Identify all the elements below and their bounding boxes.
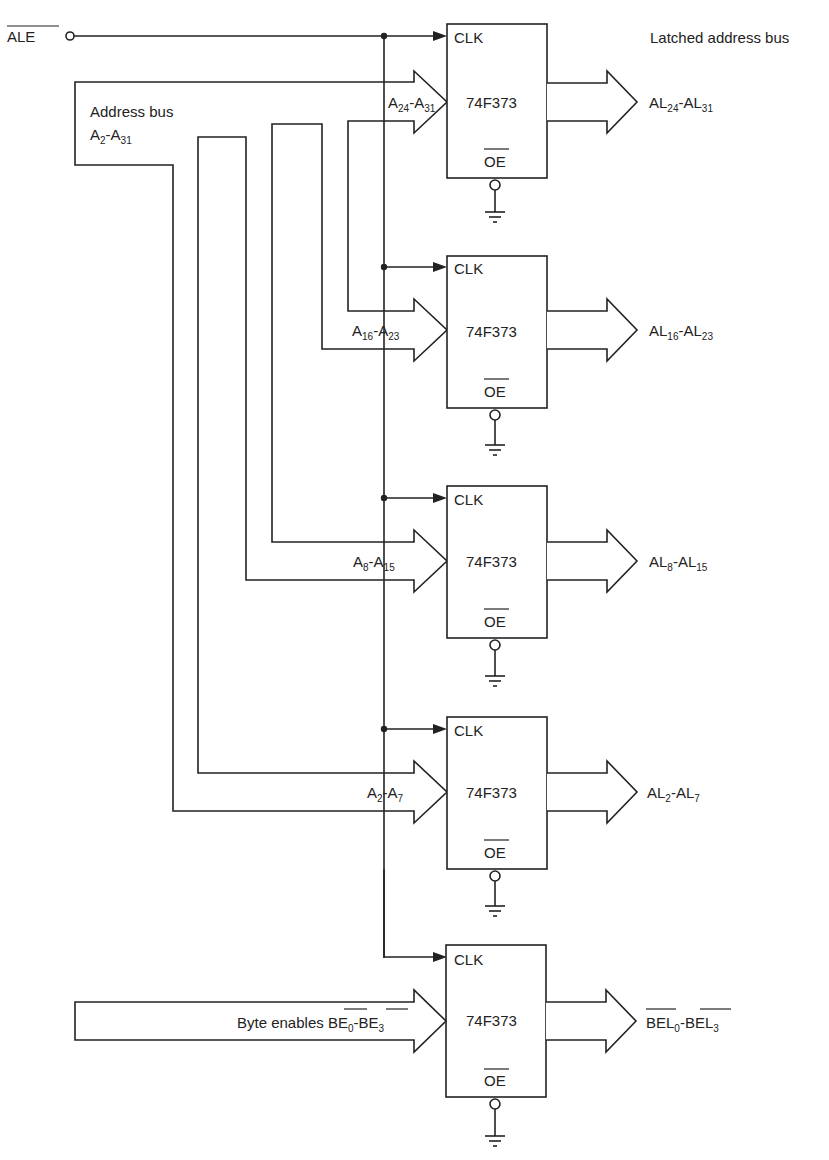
latch-1-part-label: 74F373 [466,94,517,111]
ale-label: ALE [7,28,35,45]
clk-arrow-icon [433,31,447,41]
address-bus: Address bus A2-A31 [75,71,447,823]
latch-1: CLK 74F373 OE A24-A31 AL24-AL31 [388,24,713,222]
junction-dot-icon [381,726,387,732]
ground-icon [485,1136,505,1146]
latch-3-clk-label: CLK [454,491,483,508]
latch-1-output-arrow [547,71,637,133]
clk-arrow-icon [433,952,447,962]
latch-3-oe-label: OE [484,613,506,630]
latch-4-output-arrow [547,761,637,823]
oe-bubble-icon [490,1099,500,1109]
address-bus-outline [75,71,447,823]
junction-dot-icon [381,495,387,501]
latched-address-bus-title: Latched address bus [650,29,789,46]
clk-branch-wire [384,869,438,957]
latch-3: CLK 74F373 OE A8-A15 AL8-AL15 [353,486,708,686]
address-bus-label: Address bus [90,103,173,120]
ground-icon [485,445,505,455]
latch-1-oe-label: OE [484,153,506,170]
latch-2-output-arrow [547,299,637,361]
latch-2-part-label: 74F373 [466,323,517,340]
oe-bubble-icon [490,640,500,650]
latch-3-part-label: 74F373 [466,553,517,570]
oe-bubble-icon [490,410,500,420]
latch-4-oe-label: OE [484,844,506,861]
latch-2: CLK 74F373 OE A16-A23 AL16-AL23 [352,256,713,455]
ground-icon [485,676,505,686]
latch-5: CLK 74F373 OE Byte enables BE0-BE3 BEL0-… [75,869,731,1146]
latch-4-clk-label: CLK [454,722,483,739]
ale-signal: ALE [7,26,447,45]
latch-2-oe-label: OE [484,383,506,400]
latch-3-output-label: AL8-AL15 [649,553,708,573]
latch-1-output-label: AL24-AL31 [649,94,713,114]
oe-bubble-icon [490,871,500,881]
latch-2-clk-label: CLK [454,260,483,277]
ale-inversion-bubble-icon [66,32,74,40]
oe-bubble-icon [490,180,500,190]
junction-dot-icon [381,264,387,270]
latch-5-oe-label: OE [484,1072,506,1089]
clk-arrow-icon [433,262,447,272]
clk-arrow-icon [433,724,447,734]
latch-3-output-arrow [547,530,637,592]
latch-2-output-label: AL16-AL23 [649,322,713,342]
ground-icon [485,906,505,916]
ground-icon [485,212,505,222]
latch-5-output-arrow [546,990,636,1052]
latch-5-clk-label: CLK [454,951,483,968]
latch-5-part-label: 74F373 [466,1012,517,1029]
latch-4-part-label: 74F373 [466,784,517,801]
latch-schematic: ALE Address bus A2-A31 CLK 74F373 OE A24… [0,0,829,1160]
latch-1-clk-label: CLK [454,29,483,46]
latch-4-output-label: AL2-AL7 [647,784,700,804]
latch-5-output-label: BEL0-BEL3 [646,1014,719,1034]
clk-arrow-icon [433,493,447,503]
